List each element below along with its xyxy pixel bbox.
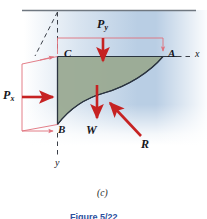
force-label-W: W	[86, 124, 97, 136]
force-label-Px: Px	[3, 89, 14, 103]
figure-caption: Figure 5/22	[70, 212, 118, 219]
point-label-C: C	[64, 48, 71, 59]
point-label-A: A	[168, 48, 175, 59]
axis-label-x: x	[195, 49, 199, 59]
force-label-Py: Py	[97, 18, 108, 32]
axis-label-y: y	[55, 158, 59, 168]
point-label-B: B	[58, 124, 65, 135]
force-label-R: R	[141, 138, 149, 150]
free-body-diagram	[0, 0, 207, 219]
subfigure-caption: (c)	[97, 188, 108, 198]
